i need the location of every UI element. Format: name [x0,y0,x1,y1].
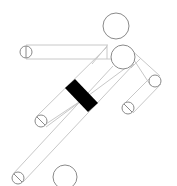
ball-circle [53,165,77,186]
head-circle [103,13,129,39]
right-elbow-circle [149,75,161,87]
figure-canvas [0,0,177,186]
shoulder-circle [111,45,135,69]
torso-band [65,79,98,112]
